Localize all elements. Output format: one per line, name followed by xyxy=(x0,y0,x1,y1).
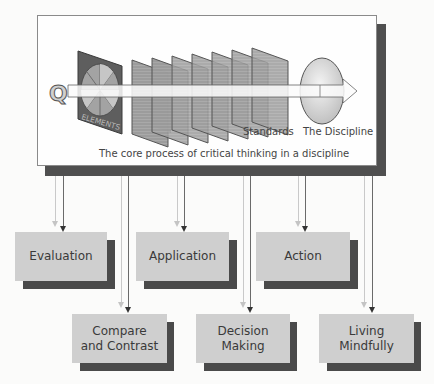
core-process-illustration: ELEMENTS Q xyxy=(37,15,377,166)
core-caption: The core process of critical thinking in… xyxy=(99,148,349,159)
outcome-box-application: Application xyxy=(136,232,229,281)
outcome-box-living-mindfully: Living Mindfully xyxy=(319,314,414,363)
outcome-box-evaluation: Evaluation xyxy=(15,232,107,281)
question-q-icon: Q xyxy=(49,81,68,106)
outcome-box-decision-making: Decision Making xyxy=(196,314,290,363)
outcome-box-action: Action xyxy=(256,232,350,281)
discipline-label: The Discipline xyxy=(303,126,373,137)
standards-label: Standards xyxy=(243,126,294,137)
outcome-box-compare-contrast: Compare and Contrast xyxy=(72,314,167,363)
